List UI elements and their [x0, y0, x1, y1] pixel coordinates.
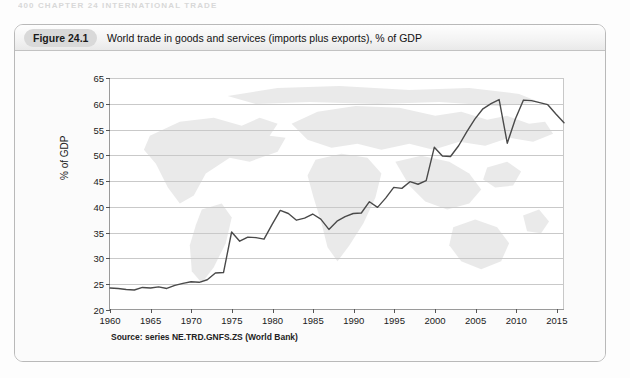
page-running-header: 400 CHAPTER 24 INTERNATIONAL TRADE — [18, 0, 438, 11]
x-tick-label: 2000 — [424, 315, 445, 326]
x-tick-label: 2010 — [506, 315, 527, 326]
y-tick-label: 65 — [93, 73, 104, 84]
y-tick-label: 25 — [93, 279, 104, 290]
x-tick-label: 2015 — [546, 315, 567, 326]
x-tick-mark — [191, 309, 192, 313]
x-tick-mark — [516, 309, 517, 313]
figure-number-badge: Figure 24.1 — [24, 29, 97, 47]
x-tick-label: 1985 — [303, 315, 324, 326]
x-tick-mark — [394, 309, 395, 313]
x-tick-mark — [313, 309, 314, 313]
y-tick-label: 40 — [93, 201, 104, 212]
x-tick-label: 1960 — [99, 315, 120, 326]
y-tick-label: 35 — [93, 227, 104, 238]
y-tick-label: 45 — [93, 176, 104, 187]
y-tick-label: 20 — [93, 305, 104, 316]
y-tick-label: 30 — [93, 253, 104, 264]
x-tick-mark — [232, 309, 233, 313]
x-tick-label: 1995 — [384, 315, 405, 326]
data-series-line — [110, 78, 564, 309]
y-tick-label: 55 — [93, 124, 104, 135]
figure-title-bar: Figure 24.1 World trade in goods and ser… — [15, 25, 605, 51]
x-tick-label: 2005 — [465, 315, 486, 326]
figure-body: % of GDP — [15, 52, 605, 362]
y-tick-label: 50 — [93, 150, 104, 161]
x-tick-mark — [151, 309, 152, 313]
x-tick-mark — [435, 309, 436, 313]
figure-source-note: Source: series NE.TRD.GNFS.ZS (World Ban… — [111, 332, 298, 342]
x-tick-mark — [557, 309, 558, 313]
x-tick-label: 1965 — [140, 315, 161, 326]
x-tick-mark — [273, 309, 274, 313]
x-tick-mark — [476, 309, 477, 313]
y-tick-label: 60 — [93, 98, 104, 109]
x-tick-label: 1975 — [221, 315, 242, 326]
x-tick-mark — [354, 309, 355, 313]
x-tick-mark — [110, 309, 111, 313]
x-tick-label: 1990 — [343, 315, 364, 326]
figure-container: Figure 24.1 World trade in goods and ser… — [14, 24, 606, 362]
figure-caption: World trade in goods and services (impor… — [107, 29, 422, 47]
x-tick-label: 1980 — [262, 315, 283, 326]
line-chart-plot: 20253035404550556065 1960196519701975198… — [109, 78, 564, 310]
y-axis-title: % of GDP — [59, 136, 70, 180]
x-tick-label: 1970 — [181, 315, 202, 326]
